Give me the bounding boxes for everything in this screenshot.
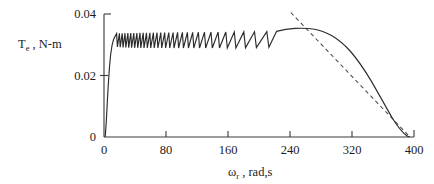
torque-speed-chart: 0.04 0.02 0 0 80 160 240 320 400 Te , N-… [0, 0, 434, 184]
x-ticklabel-400: 400 [405, 143, 424, 157]
x-axis-label: ωr , rad,s [228, 165, 273, 181]
x-ticklabel-0: 0 [101, 143, 107, 157]
x-ticklabel-80: 80 [160, 143, 173, 157]
x-axis-label-main: ω [228, 165, 236, 179]
y-ticklabel-0: 0 [90, 130, 96, 144]
y-axis-label: Te , N-m [18, 37, 62, 53]
y-axis-label-rest: , N-m [29, 37, 62, 51]
x-ticklabel-320: 320 [343, 143, 362, 157]
y-ticklabel-0.04: 0.04 [74, 7, 97, 21]
y-ticklabel-0.02: 0.02 [74, 69, 96, 83]
x-ticklabel-160: 160 [219, 143, 238, 157]
x-ticklabel-240: 240 [281, 143, 300, 157]
x-axis-label-rest: , rad,s [239, 165, 272, 179]
torque-curve [105, 28, 409, 137]
